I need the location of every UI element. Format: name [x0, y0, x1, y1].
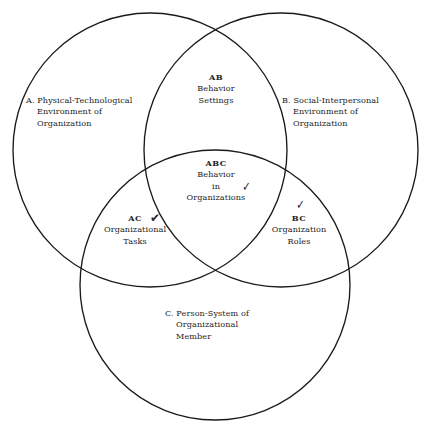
- label-region-ac-code: AC: [93, 213, 177, 224]
- venn-circles: [0, 0, 431, 431]
- label-region-ab-line1: Behavior: [178, 83, 254, 94]
- label-region-ac: AC Organizational Tasks: [93, 213, 177, 247]
- label-region-bc-line2: Roles: [259, 236, 339, 247]
- label-region-bc-code: BC: [259, 213, 339, 224]
- label-region-c-line1: C. Person-System of: [165, 308, 249, 319]
- label-region-ac-line1: Organizational: [93, 224, 177, 235]
- label-region-b-line1: B. Social-Interpersonal: [282, 95, 379, 106]
- label-region-abc: ABC Behavior in Organizations: [168, 158, 264, 204]
- label-region-abc-line1: Behavior: [168, 169, 264, 180]
- label-region-a: A. Physical-Technological Environment of…: [26, 95, 132, 129]
- label-region-ab: AB Behavior Settings: [178, 72, 254, 106]
- label-region-a-line3: Organization: [26, 118, 132, 129]
- label-region-bc: BC Organization Roles: [259, 213, 339, 247]
- label-region-b-line2: Environment of: [282, 106, 379, 117]
- label-region-c: C. Person-System of Organizational Membe…: [165, 308, 249, 342]
- label-region-a-line1: A. Physical-Technological: [26, 95, 132, 106]
- label-region-abc-code: ABC: [168, 158, 264, 169]
- label-region-b: B. Social-Interpersonal Environment of O…: [282, 95, 379, 129]
- label-region-ab-line2: Settings: [178, 95, 254, 106]
- venn-diagram: A. Physical-Technological Environment of…: [0, 0, 431, 431]
- label-region-ac-line2: Tasks: [93, 236, 177, 247]
- label-region-abc-line2: in: [168, 181, 264, 192]
- label-region-ab-code: AB: [178, 72, 254, 83]
- label-region-abc-line3: Organizations: [168, 192, 264, 203]
- label-region-b-line3: Organization: [282, 118, 379, 129]
- label-region-c-line3: Member: [165, 331, 249, 342]
- label-region-bc-line1: Organization: [259, 224, 339, 235]
- label-region-c-line2: Organizational: [165, 319, 249, 330]
- label-region-a-line2: Environment of: [26, 106, 132, 117]
